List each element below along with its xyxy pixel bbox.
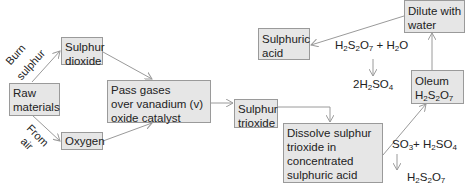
equation-dissolve-reactants: SO3+ H2SO4: [392, 137, 457, 151]
box-pass-gases: Pass gases over vanadium (v) oxide catal…: [107, 80, 211, 123]
box-oxygen: Oxygen: [61, 132, 103, 150]
box-text: Sulphur: [65, 40, 99, 54]
box-sulphur-trioxide: Sulphur trioxide: [234, 99, 278, 128]
box-sulphur-dioxide: Sulphur dioxide: [61, 37, 103, 65]
box-raw-materials: Raw materials: [9, 83, 60, 116]
flow-arrows: [0, 0, 468, 188]
box-text: trioxide in: [287, 140, 379, 154]
box-text: oxide catalyst: [111, 111, 207, 125]
box-text: materials: [13, 100, 56, 114]
box-text: water: [408, 18, 461, 32]
box-text: Oleum: [415, 74, 460, 88]
box-text: Sulphur: [238, 102, 274, 116]
box-text: Pass gases: [111, 83, 207, 97]
box-text: over vanadium (v): [111, 97, 207, 111]
box-text: Dissolve sulphur: [287, 126, 379, 140]
box-text: trioxide: [238, 116, 274, 130]
box-sulphuric-acid: Sulphuric acid: [258, 28, 310, 60]
box-text: acid: [262, 46, 306, 60]
box-text: sulphuric acid: [287, 168, 379, 182]
box-text: Dilute with: [408, 4, 461, 18]
box-text: Oxygen: [65, 134, 99, 148]
box-dilute: Dilute with water: [404, 0, 465, 33]
oleum-formula: H2S2O7: [415, 88, 460, 102]
box-text: concentrated: [287, 154, 379, 168]
equation-dilute-product: 2H2SO4: [353, 77, 393, 91]
box-dissolve: Dissolve sulphur trioxide in concentrate…: [283, 123, 383, 183]
box-text: dioxide: [65, 54, 99, 68]
equation-dilute-reactants: H2S2O7 + H2O: [335, 38, 408, 52]
box-text: Sulphuric: [262, 32, 306, 46]
box-text: Raw: [13, 86, 56, 100]
equation-dissolve-product: H2S2O7: [407, 170, 445, 184]
box-oleum: Oleum H2S2O7: [411, 70, 464, 104]
